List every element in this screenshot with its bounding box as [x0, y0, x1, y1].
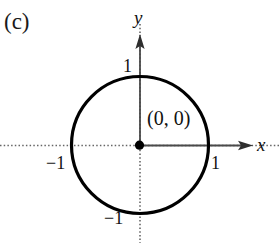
tick-label-y-negative-one: −1 [104, 209, 123, 227]
tick-label-x-positive-one: 1 [211, 154, 220, 172]
figure-panel-c: (c) y x 1 −1 1 −1 (0, 0) [0, 0, 279, 243]
origin-coordinate-label: (0, 0) [147, 108, 190, 128]
tick-label-y-positive-one: 1 [123, 57, 132, 75]
x-axis-label: x [257, 135, 265, 154]
y-axis-label: y [134, 8, 142, 27]
coordinate-plane-graphic [0, 0, 279, 243]
tick-label-x-negative-one: −1 [46, 154, 65, 172]
origin-point-marker [135, 141, 144, 150]
panel-label: (c) [4, 10, 30, 33]
